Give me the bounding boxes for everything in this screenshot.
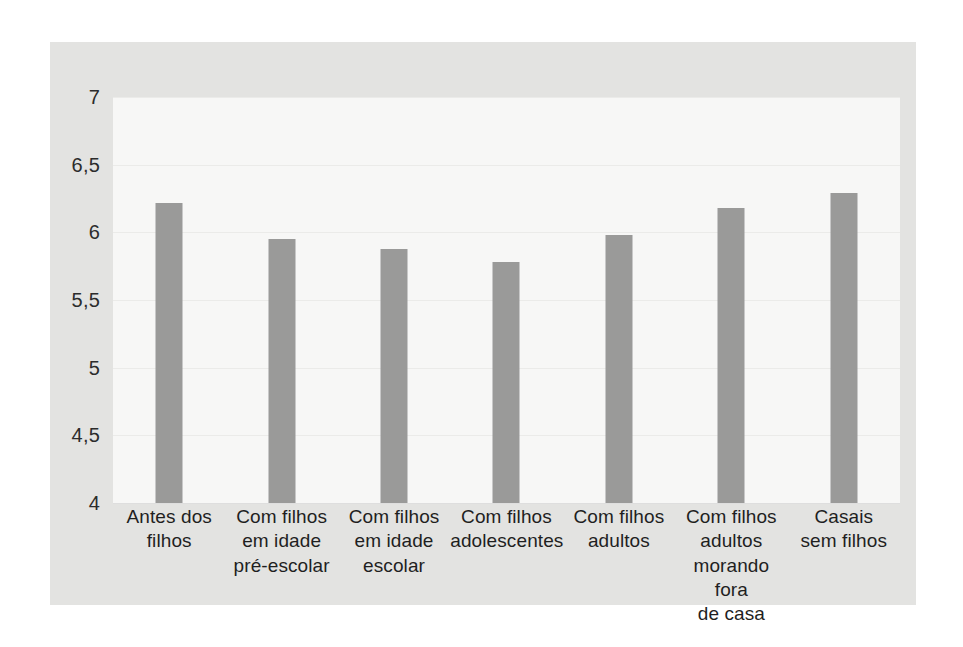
x-axis-category-labels: Antes dos filhosCom filhos em idade pré-… (113, 505, 900, 605)
x-axis-category-label: Com filhos adultos (563, 505, 675, 554)
x-axis-category: Com filhos adultos morando fora de casa (675, 505, 787, 627)
x-axis-category: Com filhos em idade pré-escolar (225, 505, 337, 578)
bar[interactable] (268, 239, 295, 503)
x-axis-category: Casais sem filhos (788, 505, 900, 554)
bar[interactable] (381, 249, 408, 503)
y-tick-label: 6 (89, 221, 100, 244)
bar-slot (563, 97, 675, 503)
bar-chart-figure: 44,555,566,57 Antes dos filhosCom filhos… (0, 0, 963, 647)
bars-layer (113, 97, 900, 503)
x-axis-category-label: Com filhos em idade escolar (338, 505, 450, 578)
y-tick-label: 4 (89, 492, 100, 515)
bar[interactable] (718, 208, 745, 503)
bar[interactable] (605, 235, 632, 503)
y-axis: 44,555,566,57 (50, 97, 108, 503)
bar-slot (450, 97, 562, 503)
x-axis-category-label: Com filhos em idade pré-escolar (225, 505, 337, 578)
x-axis-category: Com filhos adolescentes (450, 505, 562, 554)
y-tick-label: 4,5 (72, 424, 100, 447)
y-tick-label: 5,5 (72, 289, 100, 312)
bar-slot (113, 97, 225, 503)
y-tick-label: 6,5 (72, 153, 100, 176)
gridline (113, 503, 900, 504)
x-axis-category-label: Antes dos filhos (113, 505, 225, 554)
bar-slot (225, 97, 337, 503)
y-tick-label: 7 (89, 86, 100, 109)
x-axis-category: Antes dos filhos (113, 505, 225, 554)
bar-slot (338, 97, 450, 503)
chart-panel: 44,555,566,57 Antes dos filhosCom filhos… (50, 42, 916, 605)
bar[interactable] (493, 262, 520, 503)
x-axis-category-label: Com filhos adolescentes (450, 505, 562, 554)
y-tick-label: 5 (89, 356, 100, 379)
x-axis-category-label: Casais sem filhos (788, 505, 900, 554)
bar[interactable] (156, 203, 183, 503)
x-axis-category: Com filhos adultos (563, 505, 675, 554)
bar[interactable] (830, 193, 857, 503)
x-axis-category: Com filhos em idade escolar (338, 505, 450, 578)
x-axis-category-label: Com filhos adultos morando fora de casa (675, 505, 787, 627)
bar-slot (788, 97, 900, 503)
bar-slot (675, 97, 787, 503)
